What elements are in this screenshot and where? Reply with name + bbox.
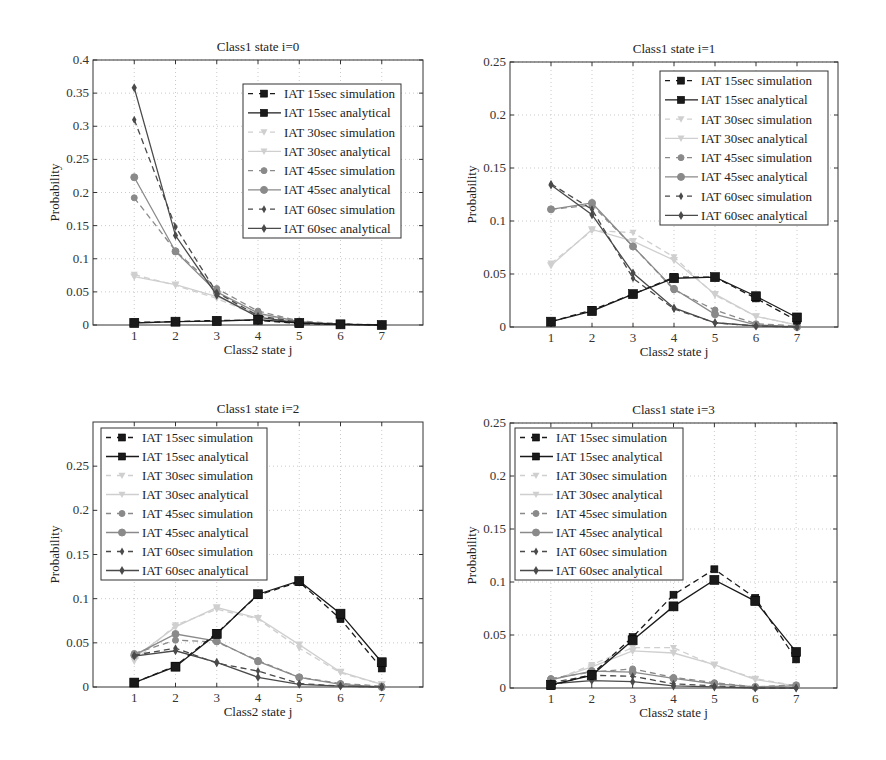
circle-marker-icon bbox=[172, 631, 179, 638]
y-tick-label: 0.35 bbox=[66, 85, 89, 100]
square-legend-icon bbox=[119, 434, 126, 441]
y-tick-label: 0.1 bbox=[73, 251, 89, 266]
legend-label: IAT 60sec simulation bbox=[284, 202, 395, 217]
subplot-2: 123456700.050.10.150.20.25Class1 state i… bbox=[47, 401, 423, 719]
y-tick-label: 0.2 bbox=[490, 107, 506, 122]
legend-label: IAT 30sec simulation bbox=[142, 468, 253, 483]
square-marker-icon bbox=[587, 671, 596, 680]
legend-label: IAT 45sec simulation bbox=[284, 163, 395, 178]
square-marker-icon bbox=[130, 319, 139, 328]
circle-legend-icon bbox=[261, 186, 268, 193]
square-marker-icon bbox=[711, 273, 720, 282]
legend-label: IAT 45sec analytical bbox=[284, 182, 391, 197]
x-tick-label: 7 bbox=[379, 328, 386, 343]
y-tick-label: 0.1 bbox=[490, 574, 506, 589]
square-marker-icon bbox=[171, 317, 180, 326]
x-tick-label: 6 bbox=[752, 691, 759, 706]
y-tick-label: 0.05 bbox=[483, 627, 506, 642]
chart-title: Class1 state i=1 bbox=[633, 41, 715, 56]
legend-label: IAT 60sec analytical bbox=[142, 563, 249, 578]
y-tick-label: 0.25 bbox=[483, 54, 506, 69]
square-marker-icon bbox=[254, 315, 263, 324]
legend-label: IAT 30sec analytical bbox=[142, 487, 249, 502]
x-tick-label: 4 bbox=[670, 691, 677, 706]
y-tick-label: 0.05 bbox=[483, 266, 506, 281]
square-marker-icon bbox=[212, 630, 221, 639]
circle-marker-icon bbox=[630, 243, 637, 250]
circle-legend-icon bbox=[533, 529, 540, 536]
diamond-marker-icon bbox=[712, 318, 717, 327]
y-tick-label: 0.15 bbox=[483, 160, 506, 175]
x-tick-label: 2 bbox=[172, 690, 179, 705]
square-marker-icon bbox=[669, 602, 678, 611]
x-tick-label: 5 bbox=[296, 690, 303, 705]
diamond-marker-icon bbox=[671, 303, 676, 312]
legend: IAT 15sec simulationIAT 15sec analytical… bbox=[101, 428, 267, 580]
legend-label: IAT 45sec analytical bbox=[701, 169, 808, 184]
circle-marker-icon bbox=[173, 637, 179, 643]
y-tick-label: 0.15 bbox=[483, 521, 506, 536]
legend-label: IAT 30sec simulation bbox=[556, 468, 667, 483]
legend-label: IAT 30sec simulation bbox=[701, 112, 812, 127]
circle-legend-icon bbox=[119, 529, 126, 536]
legend-label: IAT 60sec analytical bbox=[556, 563, 663, 578]
circle-legend-icon bbox=[119, 511, 125, 517]
square-legend-icon bbox=[119, 453, 126, 460]
square-legend-icon bbox=[533, 453, 540, 460]
legend-label: IAT 30sec analytical bbox=[284, 144, 391, 159]
legend: IAT 15sec simulationIAT 15sec analytical… bbox=[660, 71, 828, 225]
square-marker-icon bbox=[588, 307, 597, 316]
square-marker-icon bbox=[295, 319, 304, 328]
circle-marker-icon bbox=[712, 311, 719, 318]
legend-label: IAT 45sec simulation bbox=[142, 506, 253, 521]
y-axis-label: Probability bbox=[47, 163, 62, 221]
x-tick-label: 1 bbox=[131, 328, 138, 343]
diamond-marker-icon bbox=[630, 677, 635, 686]
x-tick-label: 3 bbox=[629, 691, 636, 706]
square-marker-icon bbox=[670, 274, 679, 283]
x-tick-label: 7 bbox=[794, 330, 801, 345]
square-marker-icon bbox=[130, 678, 139, 687]
y-tick-label: 0.3 bbox=[73, 118, 89, 133]
legend-label: IAT 15sec analytical bbox=[556, 449, 663, 464]
x-tick-label: 4 bbox=[671, 330, 678, 345]
square-marker-icon bbox=[711, 566, 718, 573]
legend-label: IAT 45sec simulation bbox=[701, 150, 812, 165]
circle-marker-icon bbox=[172, 248, 179, 255]
legend-label: IAT 60sec simulation bbox=[556, 544, 667, 559]
chart-title: Class1 state i=2 bbox=[217, 401, 299, 416]
square-marker-icon bbox=[295, 577, 304, 586]
legend-label: IAT 15sec analytical bbox=[701, 92, 808, 107]
square-marker-icon bbox=[751, 597, 760, 606]
square-marker-icon bbox=[254, 590, 263, 599]
square-legend-icon bbox=[678, 77, 685, 84]
x-tick-label: 5 bbox=[712, 330, 719, 345]
diamond-marker-icon bbox=[132, 83, 137, 92]
legend-label: IAT 15sec simulation bbox=[556, 430, 667, 445]
y-tick-label: 0.25 bbox=[66, 151, 89, 166]
subplot-3: 123456700.050.10.150.20.25Class1 state i… bbox=[464, 402, 837, 720]
legend-label: IAT 15sec simulation bbox=[284, 86, 395, 101]
diamond-marker-icon bbox=[214, 658, 219, 667]
legend: IAT 15sec simulationIAT 15sec analytical… bbox=[243, 84, 401, 238]
legend-label: IAT 15sec simulation bbox=[142, 430, 253, 445]
y-axis-label: Probability bbox=[464, 526, 479, 584]
square-marker-icon bbox=[171, 662, 180, 671]
square-marker-icon bbox=[547, 317, 556, 326]
x-tick-label: 5 bbox=[296, 328, 303, 343]
x-tick-label: 2 bbox=[172, 328, 179, 343]
circle-legend-icon bbox=[261, 168, 267, 174]
square-marker-icon bbox=[377, 658, 386, 667]
x-tick-label: 2 bbox=[589, 691, 596, 706]
figure: 123456700.050.10.150.20.250.30.350.4Clas… bbox=[0, 0, 886, 760]
legend-label: IAT 45sec analytical bbox=[556, 525, 663, 540]
x-axis-label: Class2 state j bbox=[224, 342, 293, 357]
circle-marker-icon bbox=[131, 174, 138, 181]
square-marker-icon bbox=[710, 575, 719, 584]
y-tick-label: 0 bbox=[500, 319, 507, 334]
square-legend-icon bbox=[678, 96, 685, 103]
x-tick-label: 7 bbox=[379, 690, 386, 705]
x-axis-label: Class2 state j bbox=[224, 704, 293, 719]
circle-marker-icon bbox=[671, 285, 678, 292]
y-tick-label: 0.15 bbox=[66, 547, 89, 562]
